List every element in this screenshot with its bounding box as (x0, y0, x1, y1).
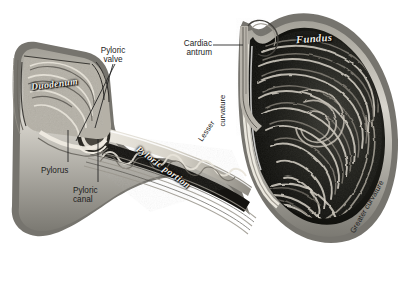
callout-line: canal (73, 195, 98, 204)
callout-pyloric-valve: Pyloric valve (91, 46, 135, 65)
callout-pylorus: Pylorus (41, 166, 68, 175)
anatomy-figure: Pyloric valve Cardiac antrum Pylorus Pyl… (0, 0, 408, 281)
callout-line: valve (91, 55, 135, 64)
label-lesser-curvature-second-word: curvature (218, 95, 227, 127)
callout-cardiac-antrum: Cardiac antrum (166, 39, 212, 58)
callout-pyloric-canal: Pyloric canal (73, 186, 98, 205)
callout-line: Pylorus (41, 166, 68, 175)
callout-line: Pyloric (73, 186, 98, 195)
callout-line: Pyloric (91, 46, 135, 55)
callout-line: antrum (166, 48, 212, 57)
callout-line: Cardiac (166, 39, 212, 48)
